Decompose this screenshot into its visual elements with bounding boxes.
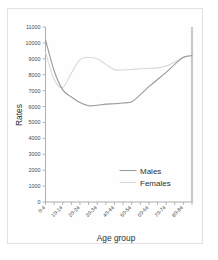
y-tick-label: 10000: [26, 40, 41, 46]
line-chart: 0100020003000400050006000700080009000100…: [0, 0, 218, 260]
y-tick-label: 6000: [29, 104, 41, 110]
series-group: [46, 40, 193, 106]
x-tick-label: 30-34: [84, 204, 98, 218]
x-tick-label: 10-14: [50, 204, 64, 218]
y-tick-label: 3000: [29, 151, 41, 157]
y-tick-label: 4000: [29, 135, 41, 141]
chart-figure: 0100020003000400050006000700080009000100…: [0, 0, 218, 260]
x-tick-label: 50-54: [119, 204, 133, 218]
x-tick-label: 80-84: [170, 204, 184, 218]
legend-label-females: Females: [140, 179, 171, 188]
series-line-males: [46, 40, 193, 106]
x-axis-title: Age group: [97, 233, 136, 243]
chart-legend: Males Females: [120, 167, 171, 188]
y-tick-label: 1000: [29, 183, 41, 189]
y-tick-label: 2000: [29, 167, 41, 173]
x-tick-label: 20-24: [67, 204, 81, 218]
y-axis-title: Rates: [14, 104, 24, 126]
x-tick-label: 40-44: [102, 204, 116, 218]
y-tick-label: 8000: [29, 72, 41, 78]
y-tick-label: 7000: [29, 88, 41, 94]
legend-label-males: Males: [140, 167, 161, 176]
y-tick-label: 0: [38, 199, 41, 205]
x-tick-group: 0-410-1420-2430-3440-4450-5460-6470-7480…: [37, 202, 192, 218]
y-tick-group: 0100020003000400050006000700080009000100…: [26, 24, 46, 205]
y-tick-label: 11000: [26, 24, 41, 30]
series-line-females: [46, 52, 193, 87]
x-tick-label: 0-4: [37, 204, 47, 214]
y-tick-label: 5000: [29, 119, 41, 125]
x-tick-label: 70-74: [153, 204, 167, 218]
x-tick-label: 60-64: [136, 204, 150, 218]
y-tick-label: 9000: [29, 56, 41, 62]
